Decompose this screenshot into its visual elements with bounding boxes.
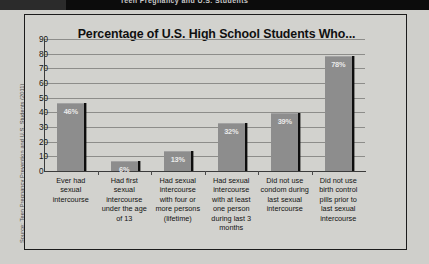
category-label: Did not usecondom duringlast sexualinter… bbox=[258, 176, 312, 214]
bar: 13% bbox=[164, 151, 191, 171]
category-label-line: intercourse bbox=[44, 195, 98, 204]
bar-value-label: 78% bbox=[325, 60, 352, 69]
category-label: Had sexualintercoursewith four ormore pe… bbox=[151, 176, 205, 223]
bar-slot: 46% bbox=[57, 39, 84, 171]
category-label-line: Had sexual bbox=[205, 176, 259, 185]
bar-value-label: 6% bbox=[111, 165, 138, 174]
bar: 46% bbox=[57, 103, 84, 171]
category-label-line: Did not use bbox=[258, 176, 312, 185]
category-label-line: under the age bbox=[98, 204, 152, 213]
category-label-line: birth control bbox=[312, 185, 366, 194]
category-label-line: pills prior to bbox=[312, 195, 366, 204]
category-label-line: intercourse bbox=[258, 204, 312, 213]
titlebar-title: Teen Pregnancy and U.S. Students bbox=[120, 0, 360, 7]
category-label-line: condom during bbox=[258, 185, 312, 194]
bar: 39% bbox=[271, 113, 298, 171]
category-label: Ever hadsexualintercourse bbox=[44, 176, 98, 204]
bar: 32% bbox=[218, 123, 245, 171]
category-label: Had sexualintercoursewith at leastone pe… bbox=[205, 176, 259, 232]
titlebar-left-block bbox=[0, 0, 66, 10]
category-label-line: more persons bbox=[151, 204, 205, 213]
screenshot-root: Teen Pregnancy and U.S. Students Source:… bbox=[0, 0, 429, 264]
category-label-line: one person bbox=[205, 204, 259, 213]
x-tick-mark bbox=[151, 171, 152, 175]
category-label-line: sexual bbox=[44, 185, 98, 194]
category-label-line: during last 3 bbox=[205, 214, 259, 223]
category-label-line: Did not use bbox=[312, 176, 366, 185]
bar-slot: 13% bbox=[164, 39, 191, 171]
bar-value-label: 13% bbox=[164, 155, 191, 164]
bar-slot: 6% bbox=[111, 39, 138, 171]
category-label-line: intercourse bbox=[312, 214, 366, 223]
category-label-line: last sexual bbox=[258, 195, 312, 204]
category-label-line: Had first bbox=[98, 176, 152, 185]
category-label-line: Ever had bbox=[44, 176, 98, 185]
bar-series: 46%6%13%32%39%78% bbox=[44, 39, 365, 171]
bar-value-label: 39% bbox=[271, 117, 298, 126]
category-label-line: intercourse bbox=[151, 185, 205, 194]
bar: 78% bbox=[325, 56, 352, 171]
window-titlebar: Teen Pregnancy and U.S. Students bbox=[0, 0, 429, 10]
bar: 6% bbox=[111, 161, 138, 171]
bar-value-label: 32% bbox=[218, 127, 245, 136]
category-label: Had firstsexualintercourseunder the ageo… bbox=[98, 176, 152, 223]
bar-slot: 39% bbox=[271, 39, 298, 171]
bar-value-label: 46% bbox=[57, 107, 84, 116]
category-label-line: of 13 bbox=[98, 214, 152, 223]
category-label-line: sexual bbox=[98, 185, 152, 194]
category-label-line: intercourse bbox=[98, 195, 152, 204]
category-label-line: (lifetime) bbox=[151, 214, 205, 223]
category-label-line: intercourse bbox=[205, 185, 259, 194]
bar-slot: 78% bbox=[325, 39, 352, 171]
category-label: Did not usebirth controlpills prior tola… bbox=[312, 176, 366, 223]
category-label-line: with at least bbox=[205, 195, 259, 204]
category-label-line: months bbox=[205, 223, 259, 232]
x-tick-mark bbox=[312, 171, 313, 175]
x-tick-mark bbox=[205, 171, 206, 175]
category-label-line: with four or bbox=[151, 195, 205, 204]
x-tick-mark bbox=[98, 171, 99, 175]
category-label-line: last sexual bbox=[312, 204, 366, 213]
category-label-line: Had sexual bbox=[151, 176, 205, 185]
x-tick-mark bbox=[258, 171, 259, 175]
bar-slot: 32% bbox=[218, 39, 245, 171]
